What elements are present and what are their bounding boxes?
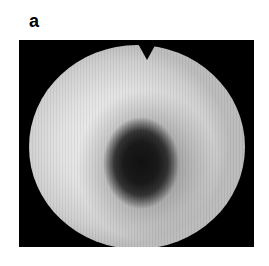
figure-image xyxy=(19,40,254,247)
panel-label: a xyxy=(29,12,39,30)
scan-texture xyxy=(29,45,245,247)
circular-field-of-view xyxy=(29,45,245,247)
notch-marker-icon xyxy=(136,40,158,60)
